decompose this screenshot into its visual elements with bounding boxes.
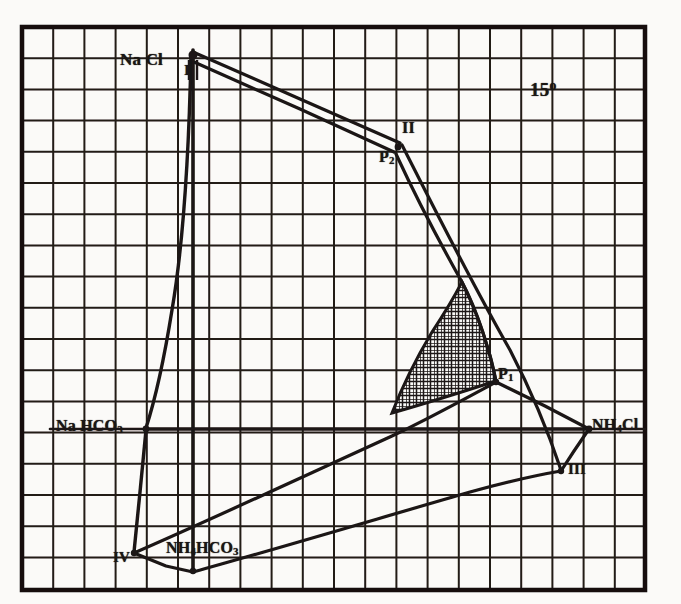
- label-temperature: 15o: [530, 78, 556, 101]
- grid-lines: [22, 27, 645, 590]
- nh4hco3-mid: HCO: [196, 539, 233, 556]
- vertex-marker-nacl: [189, 51, 198, 60]
- label-nacl: Na Cl: [120, 50, 163, 70]
- temperature-value: 15: [530, 79, 549, 100]
- degree-symbol: o: [549, 78, 556, 93]
- vertex-marker-nh4hco3: [190, 568, 196, 574]
- nh4hco3-subscript-2: 3: [233, 545, 239, 557]
- label-invariant-point-p1: P1: [498, 365, 514, 383]
- label-ammonium-bicarbonate: NH4HCO3: [166, 539, 239, 557]
- label-roman-four: IV: [113, 549, 130, 566]
- nh4cl-tail: Cl: [622, 416, 638, 433]
- diagram-canvas: [0, 0, 681, 604]
- nahco3-base: Na HCO: [56, 417, 117, 434]
- label-invariant-point-p2: P2: [379, 148, 395, 166]
- phase-diagram-figure: Na Cl I 15o II P2 P1 Na HCO3 NH4Cl III I…: [0, 0, 681, 604]
- label-sodium-bicarbonate: Na HCO3: [56, 417, 123, 435]
- vertex-marker-IV: [131, 550, 137, 556]
- p2-subscript: 2: [389, 154, 395, 166]
- label-ammonium-chloride: NH4Cl: [592, 416, 638, 434]
- label-roman-three: III: [568, 461, 586, 478]
- paper-background: [0, 0, 681, 604]
- nahco3-subscript: 3: [117, 423, 123, 435]
- vertex-marker-nahco3: [143, 426, 150, 433]
- p1-base: P: [498, 365, 508, 382]
- vertex-marker-III: [558, 468, 564, 474]
- label-roman-one: I: [184, 62, 190, 79]
- p1-subscript: 1: [508, 371, 514, 383]
- label-roman-two: II: [402, 119, 415, 137]
- nh4cl-base: NH: [592, 416, 616, 433]
- nh4hco3-base: NH: [166, 539, 190, 556]
- vertex-marker-P2: [395, 144, 402, 151]
- p2-base: P: [379, 148, 389, 165]
